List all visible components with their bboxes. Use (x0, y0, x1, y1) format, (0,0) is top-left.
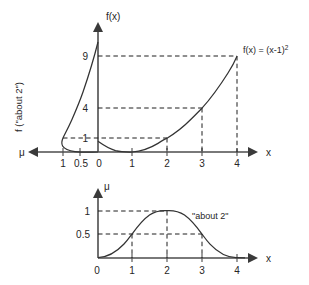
function-formula: f(x) = (x-1)2 (243, 44, 289, 56)
bottom-xtick-label-1: 1 (129, 265, 135, 276)
top-xtick-label-2: 2 (164, 158, 170, 169)
top-xtick-label-4: 4 (234, 158, 240, 169)
bottom-y-axis-label: μ (104, 181, 110, 192)
top-x-axis-arrowhead-right (248, 147, 258, 157)
top-left-vertical-label: f ("about 2") (13, 82, 24, 132)
top-x-axis-arrowhead-left (28, 147, 38, 157)
top-y-axis-label: f(x) (106, 11, 120, 22)
function-formula-exponent: 2 (285, 44, 289, 51)
bottom-x-axis-arrowhead (248, 253, 258, 263)
top-ytick-label-9: 9 (82, 51, 88, 62)
top-xtick-label-0: 0 (96, 158, 102, 169)
bottom-y-axis-arrowhead (93, 188, 103, 198)
bottom-x-axis-label: x (266, 253, 271, 264)
top-x-axis-label: x (266, 147, 271, 158)
function-formula-base: f(x) = (x-1) (243, 45, 285, 55)
top-panel: 9 4 1 1 0.5 0 1 2 3 4 f(x) x μ f ("about… (13, 11, 289, 169)
bottom-xtick-label-3: 3 (199, 265, 205, 276)
top-induced-fuzzy-curve (62, 42, 98, 152)
bottom-ytick-label-1: 1 (84, 206, 90, 217)
top-ytick-label-4: 4 (82, 103, 88, 114)
bottom-xtick-label-2: 2 (164, 265, 170, 276)
top-mu-axis-label: μ (19, 147, 25, 158)
bottom-annotation-about-2: "about 2" (192, 211, 228, 221)
figure-container: 9 4 1 1 0.5 0 1 2 3 4 f(x) x μ f ("about… (0, 0, 309, 285)
top-y-axis-arrowhead (93, 22, 103, 32)
extension-principle-figure: 9 4 1 1 0.5 0 1 2 3 4 f(x) x μ f ("about… (0, 0, 309, 285)
bottom-ytick-label-0-5: 0.5 (76, 229, 90, 240)
top-xtick-label-3: 3 (199, 158, 205, 169)
top-xtick-label-1: 1 (129, 158, 135, 169)
bottom-xtick-label-4: 4 (234, 265, 240, 276)
top-mu-label-1: 1 (60, 158, 66, 169)
bottom-xtick-label-0: 0 (94, 265, 100, 276)
bottom-panel: 1 0.5 0 1 2 3 4 μ x "about 2" (76, 181, 271, 276)
top-ytick-label-1: 1 (82, 133, 88, 144)
top-mu-label-0-5: 0.5 (74, 158, 88, 169)
